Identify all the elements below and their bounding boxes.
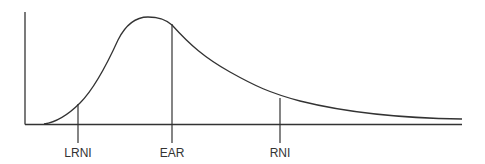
distribution-curve bbox=[44, 17, 462, 124]
marker-label-rni: RNI bbox=[270, 146, 291, 160]
marker-ear: EAR bbox=[160, 24, 185, 160]
requirement-distribution-diagram: LRNI EAR RNI bbox=[0, 0, 485, 164]
marker-label-ear: EAR bbox=[160, 146, 185, 160]
marker-rni: RNI bbox=[270, 98, 291, 160]
marker-label-lrni: LRNI bbox=[64, 146, 91, 160]
